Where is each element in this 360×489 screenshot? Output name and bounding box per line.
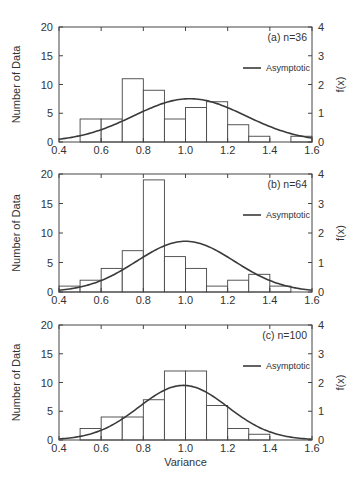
y-axis-right: 01234 [308,168,324,298]
x-tick-label: 0.8 [136,294,151,306]
histogram-bar [249,434,270,440]
x-axis-label: Variance [164,456,207,468]
histogram-bar [228,125,249,142]
x-tick-label: 1.0 [178,294,193,306]
histogram-bar [164,119,185,142]
x-tick-label: 0.6 [94,294,109,306]
y2-tick-label: 0 [318,136,324,148]
histogram-bars [80,79,312,142]
y-tick-label: 10 [41,377,53,389]
histogram-bar [207,406,228,441]
x-tick-label: 0.8 [136,442,151,454]
y2-tick-label: 1 [318,257,324,269]
panel-b: 0.40.60.81.01.21.41.60510152001234Number… [10,168,346,306]
histogram-bar [164,371,185,440]
histogram-bar [122,251,143,292]
x-tick-label: 0.6 [94,144,109,156]
histogram-bar [228,429,249,441]
histogram-bar [207,286,228,292]
legend: Asymptotic [243,63,311,73]
y-tick-label: 10 [41,79,53,91]
x-tick-label: 0.8 [136,144,151,156]
x-tick-label: 1.4 [262,144,277,156]
histogram-bar [186,371,207,440]
y-tick-label: 5 [47,257,53,269]
y-axis-label: Number of Data [10,343,22,422]
histogram-bar [143,90,164,142]
x-tick-label: 1.0 [178,442,193,454]
legend-label: Asymptotic [266,361,311,371]
histogram-bar [186,108,207,143]
histogram-bar [207,102,228,142]
histogram-bar [228,280,249,292]
x-tick-label: 1.2 [220,144,235,156]
y-axis-left: 05101520 [41,168,63,298]
panel-annotation: (a) n=36 [268,31,308,43]
y2-tick-label: 3 [318,198,324,210]
y2-tick-label: 3 [318,50,324,62]
histogram-bars [59,180,291,292]
y-axis-right: 01234 [308,21,324,148]
y2-axis-label: f(x) [334,77,346,93]
y-tick-label: 20 [41,168,53,180]
y2-tick-label: 4 [318,168,324,180]
y-tick-label: 0 [47,286,53,298]
y-tick-label: 5 [47,405,53,417]
histogram-bar [164,257,185,292]
y-tick-label: 15 [41,348,53,360]
x-tick-label: 1.4 [262,294,277,306]
y-tick-label: 0 [47,136,53,148]
y2-axis-label: f(x) [334,375,346,391]
y2-axis-label: f(x) [334,225,346,241]
y-tick-label: 15 [41,198,53,210]
histogram-bars [80,371,270,440]
y-tick-label: 15 [41,50,53,62]
panel-annotation: (c) n=100 [262,329,307,341]
y2-tick-label: 2 [318,227,324,239]
y-tick-label: 0 [47,434,53,446]
panel-c: 0.40.60.81.01.21.41.60510152001234Number… [10,319,346,468]
y2-tick-label: 4 [318,21,324,33]
figure: 0.40.60.81.01.21.41.60510152001234Number… [0,0,360,489]
histogram-bar [186,268,207,292]
y-tick-label: 5 [47,107,53,119]
histogram-bar [249,136,270,142]
y-axis-left: 05101520 [41,21,63,148]
histogram-bar [249,274,270,292]
y2-tick-label: 1 [318,107,324,119]
x-tick-label: 0.4 [51,442,66,454]
y-axis-label: Number of Data [10,45,22,124]
x-tick-label: 1.2 [220,442,235,454]
legend: Asymptotic [243,210,311,220]
y-tick-label: 20 [41,319,53,331]
y2-tick-label: 3 [318,348,324,360]
y-tick-label: 10 [41,227,53,239]
y-tick-label: 20 [41,21,53,33]
panel-annotation: (b) n=64 [268,178,308,190]
legend: Asymptotic [243,361,311,371]
y2-tick-label: 4 [318,319,324,331]
x-tick-label: 0.6 [94,442,109,454]
histogram-bar [122,79,143,142]
y2-tick-label: 1 [318,405,324,417]
histogram-bar [143,400,164,440]
x-tick-label: 1.4 [262,442,277,454]
legend-label: Asymptotic [266,63,311,73]
panel-a: 0.40.60.81.01.21.41.60510152001234Number… [10,21,346,156]
y2-tick-label: 2 [318,377,324,389]
y-axis-label: Number of Data [10,193,22,272]
y2-tick-label: 2 [318,79,324,91]
histogram-bar [143,180,164,292]
x-tick-label: 0.4 [51,294,66,306]
y2-tick-label: 0 [318,434,324,446]
histogram-bar [122,417,143,440]
x-tick-label: 1.2 [220,294,235,306]
y-axis-left: 05101520 [41,319,63,446]
y-axis-right: 01234 [308,319,324,446]
x-tick-label: 1.0 [178,144,193,156]
x-tick-label: 0.4 [51,144,66,156]
histogram-figure: 0.40.60.81.01.21.41.60510152001234Number… [0,0,360,489]
legend-label: Asymptotic [266,210,311,220]
y2-tick-label: 0 [318,286,324,298]
